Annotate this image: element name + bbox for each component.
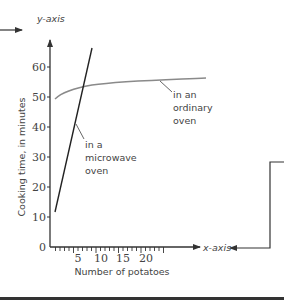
svg-text:60: 60 — [32, 61, 46, 74]
svg-text:30: 30 — [32, 151, 46, 164]
y-axis-callout-label: y-axis — [36, 13, 65, 24]
svg-text:10: 10 — [94, 252, 108, 265]
bottom-rule — [0, 297, 284, 300]
svg-text:50: 50 — [32, 91, 46, 104]
svg-text:20: 20 — [139, 252, 153, 265]
svg-text:0: 0 — [39, 241, 46, 254]
x-axis-title: Number of potatoes — [74, 266, 169, 277]
svg-text:5: 5 — [75, 252, 82, 265]
potato-cooking-time-chart: y-axis 0 10 20 30 40 50 60 5 10 15 20 Nu… — [0, 0, 284, 303]
y-tick-labels: 0 10 20 30 40 50 60 — [32, 61, 46, 254]
microwave-label: in a microwave oven — [85, 139, 140, 176]
x-axis-callout-label: x-axis — [202, 242, 231, 253]
svg-text:40: 40 — [32, 121, 46, 134]
svg-text:10: 10 — [32, 211, 46, 224]
x-tick-labels: 5 10 15 20 — [75, 252, 154, 265]
y-axis-title: Cooking time, in minutes — [16, 97, 27, 216]
ordinary-oven-label: in an ordinary oven — [173, 89, 216, 126]
svg-text:20: 20 — [32, 181, 46, 194]
ordinary-oven-leader — [160, 81, 172, 92]
svg-text:15: 15 — [116, 252, 130, 265]
microwave-leader — [76, 124, 84, 139]
x-axis-callout-arrow — [230, 162, 284, 248]
series-microwave-oven — [55, 48, 92, 212]
